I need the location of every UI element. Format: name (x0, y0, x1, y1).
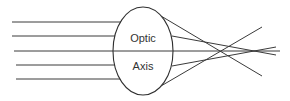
spherical-aberration-diagram: Optic Axis (0, 0, 290, 101)
refracted-inner-top (172, 36, 276, 55)
label-optic: Optic (130, 32, 156, 44)
refracted-outer-bottom (161, 27, 262, 86)
label-axis: Axis (133, 60, 154, 72)
refracted-outer-top (161, 16, 262, 76)
refracted-inner-bottom (172, 47, 276, 66)
